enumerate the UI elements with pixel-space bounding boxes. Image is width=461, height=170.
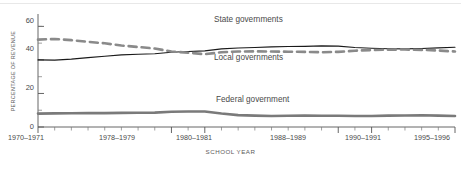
- series-line-state-governments: [38, 46, 455, 60]
- plot-area: [0, 0, 461, 170]
- series-line-federal-government: [38, 112, 455, 116]
- series-line-local-governments: [38, 39, 455, 54]
- chart-figure: PERCENTAGE OF REVENUE SCHOOL YEAR 60 40 …: [0, 0, 461, 170]
- series-lines-group: [38, 39, 455, 116]
